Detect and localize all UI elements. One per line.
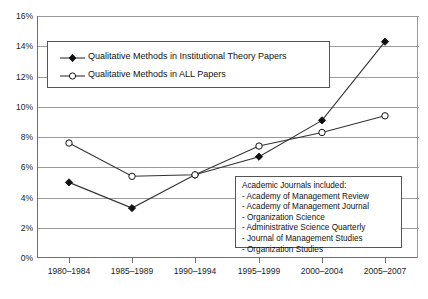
journals-note-box: Academic Journals included: - Academy of… (235, 176, 402, 248)
data-point-marker (319, 129, 325, 135)
data-point-marker (382, 113, 388, 119)
series-markers-all-papers (66, 113, 388, 180)
note-item: - Organization Studies (242, 245, 401, 256)
open-circle-icon (59, 68, 86, 80)
chart-legend: Qualitative Methods in Institutional The… (47, 41, 330, 88)
data-point-marker (255, 153, 262, 160)
note-title: Academic Journals included: (242, 181, 401, 192)
legend-label: Qualitative Methods in Institutional The… (88, 51, 286, 61)
note-item: - Administrative Science Quarterly (242, 223, 401, 234)
filled-diamond-icon (59, 50, 86, 62)
data-point-marker (128, 204, 135, 211)
legend-label: Qualitative Methods in ALL Papers (88, 69, 226, 79)
series-line-all-papers (69, 116, 385, 177)
note-item: - Journal of Management Studies (242, 234, 401, 245)
data-point-marker (66, 140, 72, 146)
note-item: - Academy of Management Review (242, 192, 401, 203)
legend-entry-all-papers: Qualitative Methods in ALL Papers (48, 65, 329, 83)
chart-container: 16% 14% 12% 10% 8% 6% 4% 2% 0% 1980–1984… (0, 0, 428, 299)
note-item: - Organization Science (242, 213, 401, 224)
data-point-marker (129, 173, 135, 179)
data-point-marker (65, 179, 72, 186)
data-point-marker (192, 172, 198, 178)
data-point-marker (256, 143, 262, 149)
note-item: - Academy of Management Journal (242, 202, 401, 213)
legend-entry-institutional-theory: Qualitative Methods in Institutional The… (48, 47, 329, 65)
